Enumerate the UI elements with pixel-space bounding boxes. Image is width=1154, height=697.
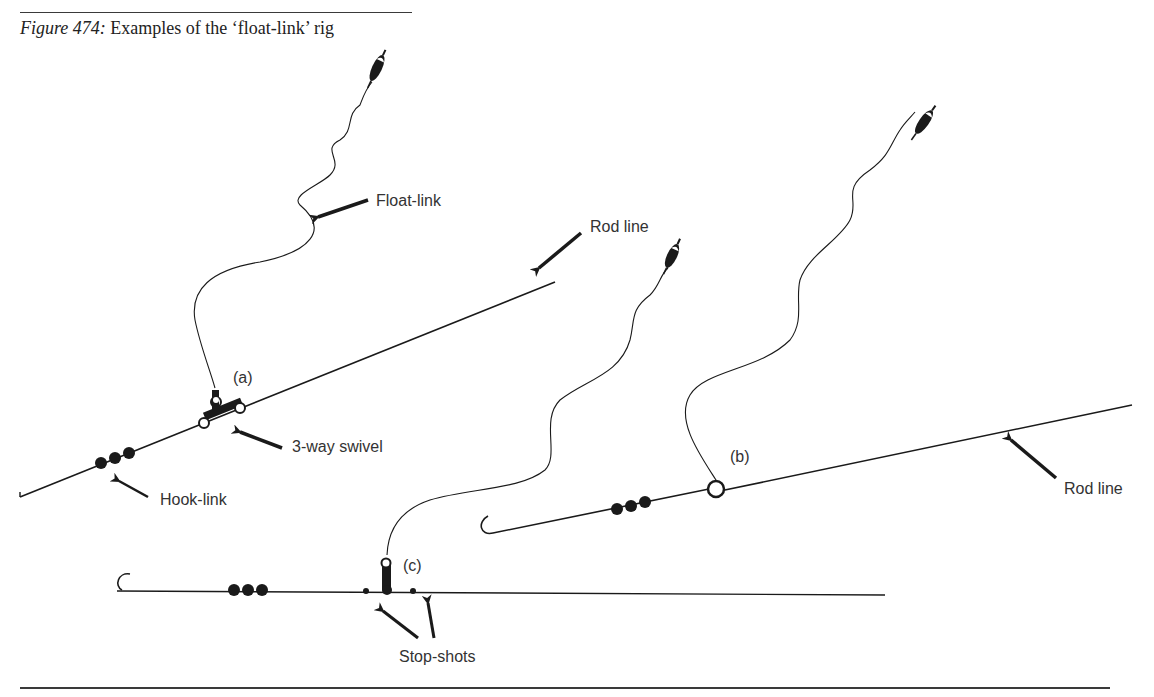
label-three-way-swivel: 3-way swivel	[292, 438, 383, 456]
label-stop-shots: Stop-shots	[399, 648, 475, 666]
rig-b-rod-line	[720, 405, 1132, 491]
rig-b-hook	[481, 489, 709, 533]
label-rod-line-a: Rod line	[590, 218, 649, 236]
label-rig-b: (b)	[730, 448, 750, 466]
arrow-rod-line-a	[539, 233, 581, 268]
pointer-arrows	[119, 200, 1056, 638]
three-way-swivel-icon	[199, 390, 245, 428]
rig-c-float-icon	[659, 237, 685, 277]
rig-c	[117, 237, 885, 596]
rig-b-float-link	[685, 112, 915, 480]
rig-a-float-link	[194, 82, 372, 388]
arrow-stop-shot-left	[383, 611, 418, 638]
label-float-link: Float-link	[376, 192, 441, 210]
bottom-rule	[20, 687, 1110, 689]
rig-b-ring-icon	[708, 481, 724, 497]
rig-b-float-icon	[907, 103, 939, 143]
label-hook-link: Hook-link	[160, 491, 227, 509]
arrow-float-link	[318, 200, 368, 217]
arrow-rod-line-b	[1011, 440, 1056, 478]
arrow-hook-link	[119, 481, 148, 497]
label-rod-line-b: Rod line	[1064, 480, 1123, 498]
rig-a	[20, 48, 555, 497]
rig-c-float-link	[387, 268, 668, 555]
label-rig-a: (a)	[233, 369, 253, 387]
rig-a-float-icon	[363, 48, 390, 90]
rig-c-swivel-icon	[382, 559, 393, 596]
rig-b-split-shots	[611, 496, 651, 515]
rig-c-split-shots	[228, 584, 268, 596]
rig-a-split-shots	[95, 447, 135, 469]
stop-shot-left	[363, 588, 369, 594]
arrow-stop-shot-right	[428, 603, 434, 638]
stop-shot-right	[410, 588, 416, 594]
rig-b	[481, 103, 1132, 534]
arrow-three-way-swivel	[240, 432, 282, 448]
rig-c-hook	[118, 574, 130, 590]
label-rig-c: (c)	[403, 557, 422, 575]
float-link-rig-diagram	[0, 0, 1154, 697]
